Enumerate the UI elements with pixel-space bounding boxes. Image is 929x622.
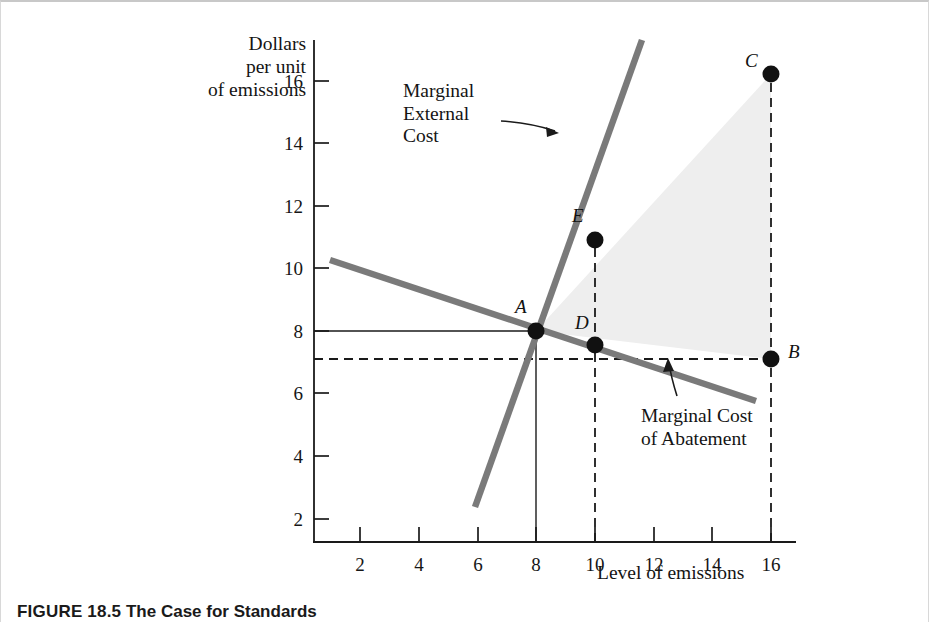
y-tick-label-16: 16 [263, 72, 303, 91]
data-point-c [763, 66, 780, 83]
mec-label-line-2: External [403, 103, 474, 126]
y-tick-label-4: 4 [263, 447, 303, 466]
data-point-d [587, 337, 604, 354]
point-label-d: D [575, 313, 589, 332]
point-label-c: C [745, 51, 758, 70]
y-tick-label-2: 2 [263, 510, 303, 529]
y-tick-label-12: 12 [263, 197, 303, 216]
marginal-cost-of-abatement-label: Marginal Cost of Abatement [641, 405, 753, 450]
figure-caption: FIGURE 18.5 The Case for Standards [17, 602, 317, 622]
point-label-a: A [515, 297, 527, 316]
point-label-e: E [572, 206, 584, 225]
marginal-external-cost-label: Marginal External Cost [403, 80, 474, 148]
x-tick-label-16: 16 [751, 555, 791, 574]
figure-container: Dollars per unit of emissions Level of e… [0, 0, 929, 622]
y-tick-label-8: 8 [263, 322, 303, 341]
x-tick-label-6: 6 [458, 555, 498, 574]
y-tick-label-14: 14 [263, 134, 303, 153]
y-axis-ticks [314, 81, 329, 519]
x-tick-label-10: 10 [575, 555, 615, 574]
x-tick-label-12: 12 [634, 555, 674, 574]
figure-caption-number: FIGURE 18.5 [17, 602, 121, 621]
mca-label-line-1: Marginal Cost [641, 405, 753, 428]
y-tick-label-6: 6 [263, 384, 303, 403]
mec-label-line-3: Cost [403, 125, 474, 148]
mec-annotation-arrow [501, 121, 559, 137]
data-point-a [528, 323, 545, 340]
x-tick-label-2: 2 [340, 555, 380, 574]
x-tick-label-14: 14 [692, 555, 732, 574]
data-point-e [587, 232, 604, 249]
mca-label-line-2: of Abatement [641, 428, 753, 451]
x-axis-ticks [360, 527, 771, 542]
data-point-b [763, 351, 780, 368]
point-label-b: B [788, 342, 800, 361]
figure-caption-title: The Case for Standards [126, 602, 317, 621]
x-tick-label-8: 8 [516, 555, 556, 574]
y-axis-title-line-1: Dollars [171, 32, 306, 55]
x-tick-label-4: 4 [399, 555, 439, 574]
mec-label-line-1: Marginal [403, 80, 474, 103]
y-tick-label-10: 10 [263, 259, 303, 278]
